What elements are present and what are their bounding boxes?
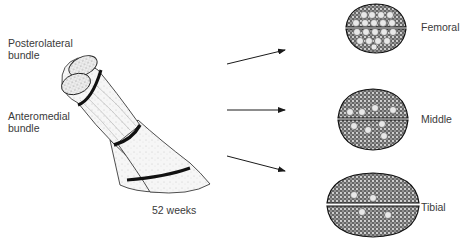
anteromedial-bundle-label: Anteromedial bundle xyxy=(8,110,70,134)
tibial-cross-section xyxy=(327,173,419,237)
label-line-2: bundle xyxy=(8,49,73,61)
middle-cross-section xyxy=(338,89,408,150)
section-label-tibial: Tibial xyxy=(421,201,446,213)
femoral-cross-section xyxy=(346,4,406,53)
label-line-1: Anteromedial xyxy=(8,110,70,122)
section-label-femoral: Femoral xyxy=(421,21,460,33)
label-line-2: bundle xyxy=(8,122,70,134)
arrow-to-tibial xyxy=(227,156,285,171)
time-label: 52 weeks xyxy=(152,204,196,216)
label-line-1: Posterolateral xyxy=(8,37,73,49)
arrow-to-femoral xyxy=(227,50,285,64)
section-label-middle: Middle xyxy=(421,113,452,125)
acl-graft-illustration xyxy=(58,52,210,193)
posterolateral-bundle-label: Posterolateral bundle xyxy=(8,37,73,61)
